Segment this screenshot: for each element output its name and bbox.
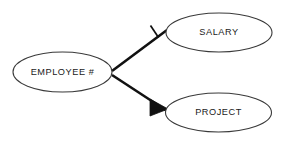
entity-project[interactable]: PROJECT <box>166 93 272 132</box>
entity-label-employee: EMPLOYEE # <box>31 67 95 77</box>
relationship-employee-salary[interactable] <box>112 26 167 72</box>
connector-line-employee-salary[interactable] <box>112 30 167 71</box>
crowsfoot-middle-prong <box>151 108 168 109</box>
relationship-employee-project[interactable] <box>112 75 168 116</box>
entity-salary[interactable]: SALARY <box>166 13 272 52</box>
er-diagram-canvas: EMPLOYEE # SALARY PROJECT <box>0 0 282 142</box>
entity-label-project: PROJECT <box>195 107 242 117</box>
cardinality-one-tick-salary <box>151 26 159 38</box>
er-diagram-svg: EMPLOYEE # SALARY PROJECT <box>0 0 282 142</box>
entity-employee[interactable]: EMPLOYEE # <box>13 52 112 92</box>
entity-label-salary: SALARY <box>199 27 238 37</box>
